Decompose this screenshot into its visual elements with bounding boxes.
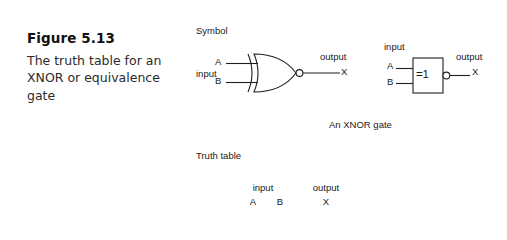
figure-number-label: Figure 5.13 — [27, 31, 167, 47]
xnor-gate-body — [254, 54, 296, 92]
truth-table-section-label: Truth table — [196, 150, 241, 161]
figure-description: The truth table for an XNOR or equivalen… — [27, 52, 167, 105]
iec-xnor-gate — [396, 58, 470, 93]
ansi-input-a-label: A — [215, 56, 221, 67]
iec-output-group-label: output — [456, 51, 482, 62]
truth-table-column-x: X — [318, 196, 334, 207]
truth-table-output-group-header: output — [303, 182, 349, 193]
xor-extra-arc — [248, 54, 252, 92]
iec-output-x-label: X — [472, 66, 478, 77]
truth-table-column-b: B — [272, 196, 288, 207]
ansi-input-group-label: input — [196, 68, 217, 79]
ansi-output-group-label: output — [320, 51, 346, 62]
iec-body-text: =1 — [416, 68, 429, 80]
iec-inversion-bubble — [443, 72, 450, 79]
truth-table-column-a: A — [245, 196, 261, 207]
truth-table-input-group-header: input — [240, 182, 286, 193]
ansi-output-x-label: X — [341, 66, 347, 77]
ansi-input-b-label: B — [215, 75, 221, 86]
iec-input-b-label: B — [387, 76, 393, 87]
symbol-section-label: Symbol — [196, 25, 228, 36]
iec-input-group-label: input — [384, 41, 405, 52]
figure-caption-block: Figure 5.13 The truth table for an XNOR … — [27, 31, 167, 105]
iec-input-a-label: A — [387, 60, 393, 71]
xnor-gate-caption: An XNOR gate — [329, 119, 392, 130]
ansi-inversion-bubble — [296, 70, 303, 77]
